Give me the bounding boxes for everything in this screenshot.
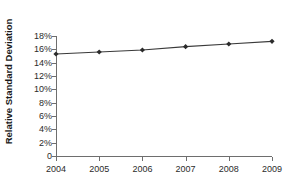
x-tick-mark <box>99 157 100 161</box>
y-tick-mark <box>52 129 56 130</box>
y-tick-mark <box>52 63 56 64</box>
y-tick-label: 2% <box>18 138 52 148</box>
y-axis-tick-labels: 02%4%6%8%10%12%14%16%18% <box>18 0 52 189</box>
y-tick-mark <box>52 143 56 144</box>
y-tick-label: 12% <box>18 71 52 81</box>
data-point-marker <box>140 47 145 52</box>
data-point-marker <box>53 51 58 56</box>
y-tick-label: 18% <box>18 31 52 41</box>
chart-screenshot: Relative Standard Deviation 02%4%6%8%10%… <box>0 0 292 189</box>
data-point-marker <box>97 49 102 54</box>
y-tick-label: 4% <box>18 124 52 134</box>
y-tick-label: 8% <box>18 98 52 108</box>
x-tick-mark <box>229 157 230 161</box>
y-tick-mark <box>52 103 56 104</box>
x-tick-label: 2004 <box>46 164 66 174</box>
y-tick-mark <box>52 89 56 90</box>
x-tick-label: 2006 <box>132 164 152 174</box>
series-line-path <box>56 41 272 54</box>
x-tick-label: 2008 <box>219 164 239 174</box>
x-tick-mark <box>186 157 187 161</box>
y-tick-label: 16% <box>18 44 52 54</box>
data-point-marker <box>226 41 231 46</box>
data-point-marker <box>269 39 274 44</box>
y-tick-label: 14% <box>18 58 52 68</box>
x-tick-mark <box>56 157 57 161</box>
y-axis-title: Relative Standard Deviation <box>0 0 18 163</box>
y-tick-label: 6% <box>18 111 52 121</box>
y-tick-mark <box>52 36 56 37</box>
x-tick-mark <box>272 157 273 161</box>
x-tick-mark <box>142 157 143 161</box>
y-tick-mark <box>52 116 56 117</box>
line-series <box>56 36 272 157</box>
x-tick-label: 2007 <box>176 164 196 174</box>
y-tick-label: 10% <box>18 84 52 94</box>
y-axis-title-text: Relative Standard Deviation <box>4 19 15 145</box>
y-tick-mark <box>52 49 56 50</box>
x-tick-label: 2009 <box>262 164 282 174</box>
y-tick-label: 0 <box>18 151 52 161</box>
series-markers <box>53 39 274 57</box>
plot-area <box>56 36 272 156</box>
y-tick-mark <box>52 76 56 77</box>
x-tick-label: 2005 <box>89 164 109 174</box>
data-point-marker <box>183 44 188 49</box>
